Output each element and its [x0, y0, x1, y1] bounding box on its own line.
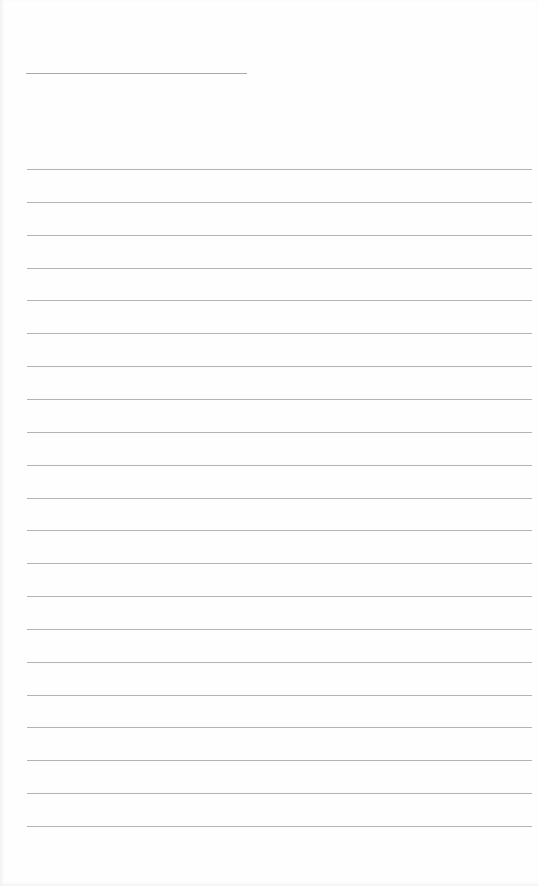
ruled-line — [27, 629, 532, 630]
ruled-line — [27, 793, 532, 794]
ruled-line — [27, 235, 532, 236]
ruled-line — [27, 530, 532, 531]
ruled-line — [27, 202, 532, 203]
ruled-line — [27, 727, 532, 728]
ruled-line — [27, 432, 532, 433]
ruled-line — [27, 268, 532, 269]
ruled-line — [27, 399, 532, 400]
ruled-line — [27, 596, 532, 597]
ruled-line — [27, 760, 532, 761]
ruled-line — [27, 300, 532, 301]
ruled-line — [27, 498, 532, 499]
lined-paper-page — [0, 0, 538, 886]
ruled-line — [27, 826, 532, 827]
ruled-lines — [0, 0, 538, 886]
ruled-line — [27, 465, 532, 466]
ruled-line — [27, 662, 532, 663]
ruled-line — [27, 695, 532, 696]
ruled-line — [27, 333, 532, 334]
ruled-line — [27, 563, 532, 564]
ruled-line — [27, 366, 532, 367]
ruled-line — [27, 169, 532, 170]
